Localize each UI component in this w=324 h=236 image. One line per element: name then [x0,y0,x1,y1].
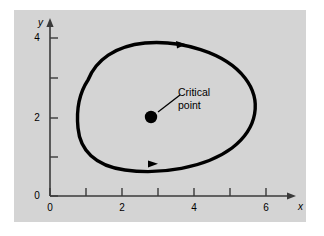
x-tick-label-2: 2 [116,203,128,213]
y-tick-label-4: 4 [31,33,43,43]
y-tick-label-0: 0 [31,191,43,201]
critical-point-annotation: Critical point [178,86,210,112]
plot-svg [0,0,324,236]
annotation-line-1: Critical [178,86,210,99]
x-axis-label: x [298,202,303,212]
x-tick-label-4: 4 [188,203,200,213]
y-axis-label: y [38,18,43,28]
y-axis [46,18,58,196]
x-tick-label-0: 0 [44,203,56,213]
x-axis [50,188,296,200]
annotation-line-2: point [178,99,210,112]
critical-point-marker [145,111,157,123]
x-tick-label-6: 6 [260,203,272,213]
flow-arrow-top [176,41,186,49]
annotation-leader-line [158,95,180,112]
closed-orbit-curve [77,43,255,172]
y-tick-label-2: 2 [31,113,43,123]
figure-container: y x 4 2 0 0 2 4 6 Critical point [0,0,324,236]
flow-arrow-bottom [148,161,158,168]
